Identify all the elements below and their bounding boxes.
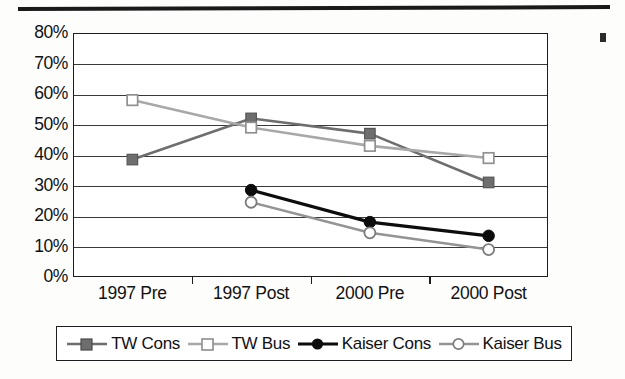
- data-point-tw-bus: [246, 122, 257, 133]
- legend-item-tw-cons: TW Cons: [66, 334, 180, 354]
- legend-marker-kaiser-bus: [438, 336, 480, 352]
- legend-label-kaiser-bus: Kaiser Bus: [483, 334, 562, 354]
- chart-legend: TW Cons TW Bus Kaiser Cons Kaiser Bus: [56, 326, 572, 361]
- data-point-tw-cons: [483, 177, 494, 188]
- legend-item-kaiser-cons: Kaiser Cons: [297, 334, 431, 354]
- legend-label-tw-cons: TW Cons: [111, 334, 180, 354]
- data-point-tw-bus: [127, 95, 138, 106]
- legend-marker-tw-cons: [66, 336, 108, 352]
- data-point-tw-bus: [365, 141, 376, 152]
- line-chart: 80%70%60%50%40%30%20%10%0% 1997 Pre1997 …: [0, 0, 625, 379]
- series-layer: [0, 0, 625, 379]
- series-line-tw-bus: [132, 100, 488, 158]
- data-point-tw-cons: [127, 154, 138, 165]
- data-point-kaiser-bus: [483, 244, 494, 255]
- data-point-kaiser-cons: [483, 230, 495, 242]
- legend-item-kaiser-bus: Kaiser Bus: [438, 334, 562, 354]
- legend-item-tw-bus: TW Bus: [187, 334, 291, 354]
- legend-marker-tw-bus: [187, 336, 229, 352]
- series-line-tw-cons: [132, 118, 488, 182]
- data-point-tw-cons: [365, 128, 376, 139]
- data-point-kaiser-cons: [364, 216, 376, 228]
- legend-marker-kaiser-cons: [297, 336, 339, 352]
- data-point-kaiser-bus: [364, 227, 375, 238]
- legend-label-kaiser-cons: Kaiser Cons: [342, 334, 431, 354]
- data-point-kaiser-bus: [246, 197, 257, 208]
- data-point-tw-bus: [483, 153, 494, 164]
- legend-label-tw-bus: TW Bus: [232, 334, 291, 354]
- data-point-kaiser-cons: [245, 184, 257, 196]
